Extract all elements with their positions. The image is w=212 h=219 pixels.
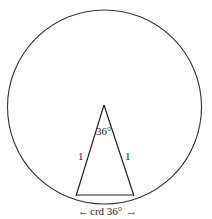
chord-diagram: 36° 1 1 ← crd 36° →	[0, 0, 212, 219]
right-side-label: 1	[125, 150, 131, 162]
chord-left-arrow: ←	[78, 205, 89, 217]
left-side-label: 1	[78, 150, 84, 162]
angle-label: 36°	[96, 125, 111, 137]
chord-label: crd 36°	[90, 205, 122, 217]
chord-right-arrow: →	[126, 205, 137, 217]
